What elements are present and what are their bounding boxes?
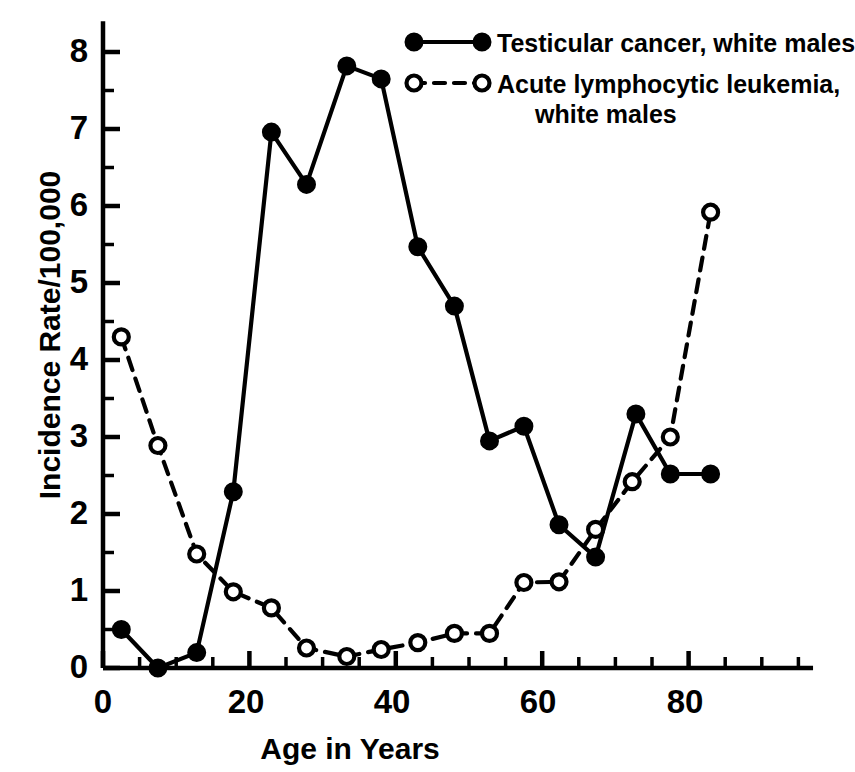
data-point-0-15 [662,466,679,483]
data-point-1-15 [663,430,678,445]
data-point-0-5 [298,176,315,193]
data-point-0-6 [338,57,355,74]
data-point-1-5 [299,641,314,656]
data-point-0-2 [188,644,205,661]
data-point-1-7 [374,642,389,657]
data-point-1-3 [226,584,241,599]
data-point-0-3 [225,483,242,500]
axis-ticks [103,52,798,668]
data-series [113,57,719,676]
data-point-0-10 [481,432,498,449]
data-point-1-1 [150,438,165,453]
data-point-0-0 [113,621,130,638]
data-point-0-16 [702,466,719,483]
legend-marker-1-0 [407,76,422,91]
series-line-0 [121,66,710,668]
data-point-0-7 [373,70,390,87]
data-point-1-4 [264,600,279,615]
data-point-1-8 [410,635,425,650]
data-point-1-6 [339,649,354,664]
data-point-0-9 [446,298,463,315]
data-point-1-0 [114,329,129,344]
legend-marker-0-0 [406,34,423,51]
data-point-1-10 [482,626,497,641]
data-point-0-14 [627,405,644,422]
data-point-1-2 [189,547,204,562]
data-point-0-11 [515,418,532,435]
data-point-1-12 [552,574,567,589]
data-point-1-9 [447,626,462,641]
data-point-0-12 [551,516,568,533]
legend-marker-0-1 [474,34,491,51]
data-point-0-8 [409,238,426,255]
data-point-0-4 [263,124,280,141]
data-point-1-11 [516,575,531,590]
data-point-1-14 [625,474,640,489]
legend-marker-1-1 [475,76,490,91]
legend-markers [406,34,491,91]
axes-lines [103,21,813,668]
data-point-0-1 [149,660,166,677]
data-point-1-13 [588,522,603,537]
data-point-1-16 [703,205,718,220]
data-point-0-13 [587,549,604,566]
